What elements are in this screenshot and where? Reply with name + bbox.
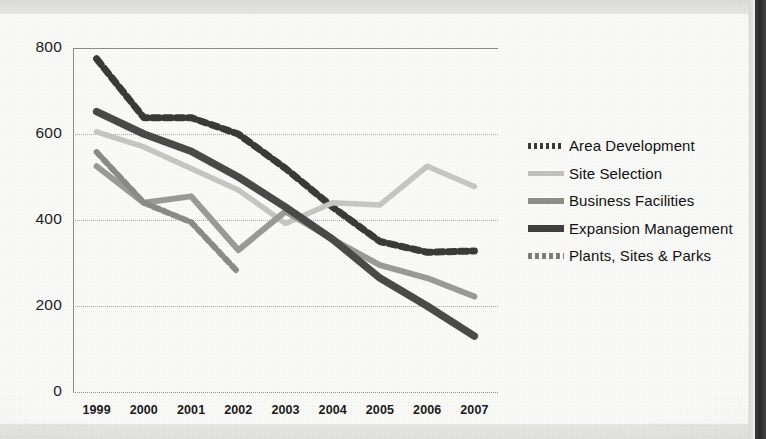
y-axis-labels: 800 600 400 200 0 bbox=[0, 48, 62, 392]
legend-item-site-selection: Site Selection bbox=[528, 160, 743, 188]
legend-item-expansion-management: Expansion Management bbox=[528, 215, 743, 243]
legend-label: Site Selection bbox=[569, 165, 662, 182]
legend-item-plants-sites-parks: Plants, Sites & Parks bbox=[528, 242, 743, 270]
x-tick-2000: 2000 bbox=[130, 403, 158, 417]
series-line bbox=[97, 166, 475, 296]
x-tick-2007: 2007 bbox=[460, 403, 488, 417]
dashed-line-swatch bbox=[528, 253, 564, 259]
plot-area bbox=[73, 48, 498, 392]
x-tick-2001: 2001 bbox=[177, 403, 205, 417]
legend-label: Plants, Sites & Parks bbox=[569, 247, 711, 264]
dashed-line-swatch bbox=[528, 143, 564, 149]
solid-line-swatch bbox=[528, 198, 564, 204]
y-tick-600: 600 bbox=[4, 124, 62, 142]
x-tick-2004: 2004 bbox=[319, 403, 347, 417]
gridline-0 bbox=[73, 392, 498, 393]
legend-label: Business Facilities bbox=[569, 192, 694, 209]
y-tick-800: 800 bbox=[4, 38, 62, 56]
x-tick-2002: 2002 bbox=[224, 403, 252, 417]
legend-label: Area Development bbox=[569, 137, 695, 154]
chart-image-root: 800 600 400 200 0 1999 2000 2001 2002 20… bbox=[0, 0, 766, 439]
x-tick-2005: 2005 bbox=[366, 403, 394, 417]
y-tick-400: 400 bbox=[4, 210, 62, 228]
x-tick-2006: 2006 bbox=[413, 403, 441, 417]
x-tick-1999: 1999 bbox=[82, 403, 110, 417]
page-edge-dark-band bbox=[755, 0, 766, 439]
chart-legend: Area Development Site Selection Business… bbox=[528, 132, 743, 270]
y-tick-200: 200 bbox=[4, 296, 62, 314]
y-tick-0: 0 bbox=[4, 382, 62, 400]
series-line bbox=[97, 152, 239, 272]
solid-line-swatch bbox=[528, 171, 564, 176]
x-axis-labels: 1999 2000 2001 2002 2003 2004 2005 2006 … bbox=[73, 403, 498, 425]
solid-line-swatch bbox=[528, 225, 564, 232]
x-tick-2003: 2003 bbox=[271, 403, 299, 417]
chart-card: 800 600 400 200 0 1999 2000 2001 2002 20… bbox=[0, 14, 748, 424]
legend-item-area-development: Area Development bbox=[528, 132, 743, 160]
series-lines bbox=[73, 48, 498, 392]
legend-item-business-facilities: Business Facilities bbox=[528, 187, 743, 215]
legend-label: Expansion Management bbox=[569, 220, 733, 237]
